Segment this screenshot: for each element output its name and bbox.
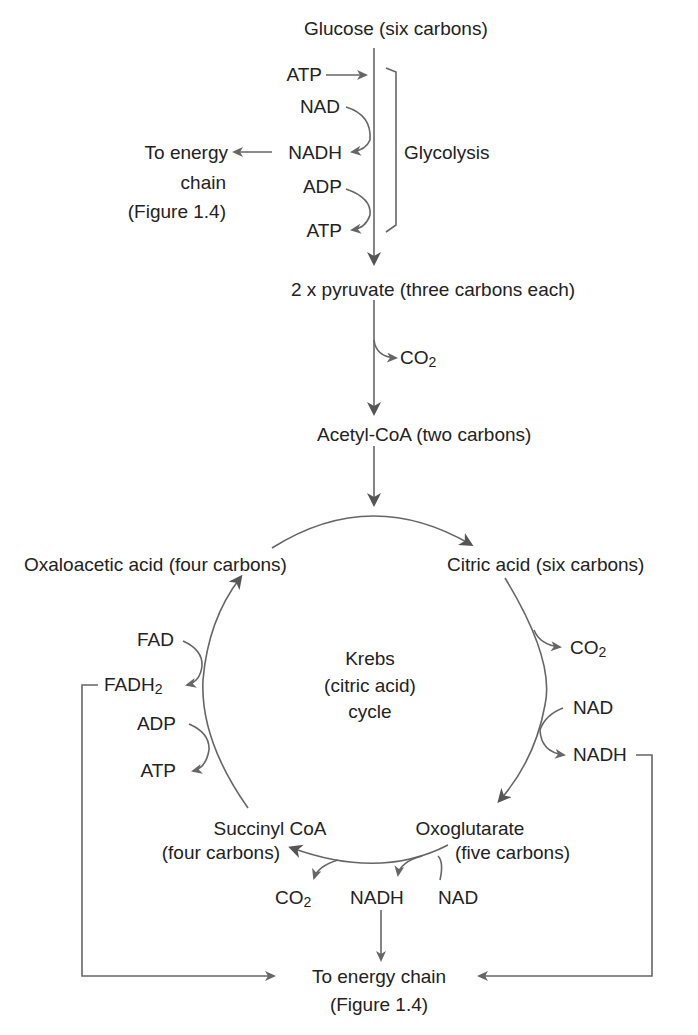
succinyl-coa-line1: Succinyl CoA bbox=[200, 818, 340, 840]
krebs-center-line3: cycle bbox=[300, 701, 440, 723]
to-energy-chain-line2: chain bbox=[100, 172, 226, 194]
atp-out-label: ATP bbox=[280, 220, 342, 242]
to-energy-chain-output-line1: To energy chain bbox=[281, 966, 477, 988]
oxoglutarate-line1: Oxoglutarate bbox=[400, 818, 540, 840]
cycle-arc-succinyl-to-oxaloacetic bbox=[203, 578, 248, 808]
nad-bottom-label: NAD bbox=[438, 887, 478, 909]
nad-right-label: NAD bbox=[573, 697, 613, 719]
nadh-bottom-label: NADH bbox=[350, 887, 404, 909]
cycle-arc-oxaloacetic-to-citric bbox=[272, 516, 470, 548]
succinyl-coa-line2: (four carbons) bbox=[140, 842, 280, 864]
atp-in-label: ATP bbox=[270, 64, 322, 86]
nad-label: NAD bbox=[280, 96, 340, 118]
cycle-arc-citric-to-oxoglutarate bbox=[500, 578, 547, 800]
adp-label: ADP bbox=[280, 176, 342, 198]
co2-right-label: CO2 bbox=[570, 637, 606, 659]
to-energy-chain-line3: (Figure 1.4) bbox=[100, 201, 226, 223]
cycle-arc-oxoglutarate-to-succinyl bbox=[292, 845, 448, 863]
co2-bottom-label: CO2 bbox=[275, 887, 311, 909]
citric-acid-label: Citric acid (six carbons) bbox=[447, 554, 644, 576]
nadh-right-label: NADH bbox=[573, 744, 627, 766]
glucose-label: Glucose (six carbons) bbox=[304, 18, 488, 40]
oxoglutarate-line2: (five carbons) bbox=[430, 842, 570, 864]
oxaloacetic-acid-label: Oxaloacetic acid (four carbons) bbox=[24, 554, 287, 576]
acetyl-coa-label: Acetyl-CoA (two carbons) bbox=[317, 424, 531, 446]
nadh-label: NADH bbox=[270, 142, 342, 164]
pyruvate-label: 2 x pyruvate (three carbons each) bbox=[291, 279, 575, 301]
krebs-center-line2: (citric acid) bbox=[300, 675, 440, 697]
to-energy-chain-line1: To energy bbox=[100, 142, 228, 164]
krebs-center-line1: Krebs bbox=[300, 648, 440, 670]
co2-link-label: CO2 bbox=[400, 347, 436, 369]
fadh2-label: FADH2 bbox=[104, 674, 162, 696]
fad-label: FAD bbox=[110, 629, 174, 651]
atp-left-label: ATP bbox=[110, 760, 176, 782]
adp-left-label: ADP bbox=[110, 713, 176, 735]
glycolysis-label: Glycolysis bbox=[404, 142, 490, 164]
to-energy-chain-output-line2: (Figure 1.4) bbox=[281, 994, 477, 1016]
